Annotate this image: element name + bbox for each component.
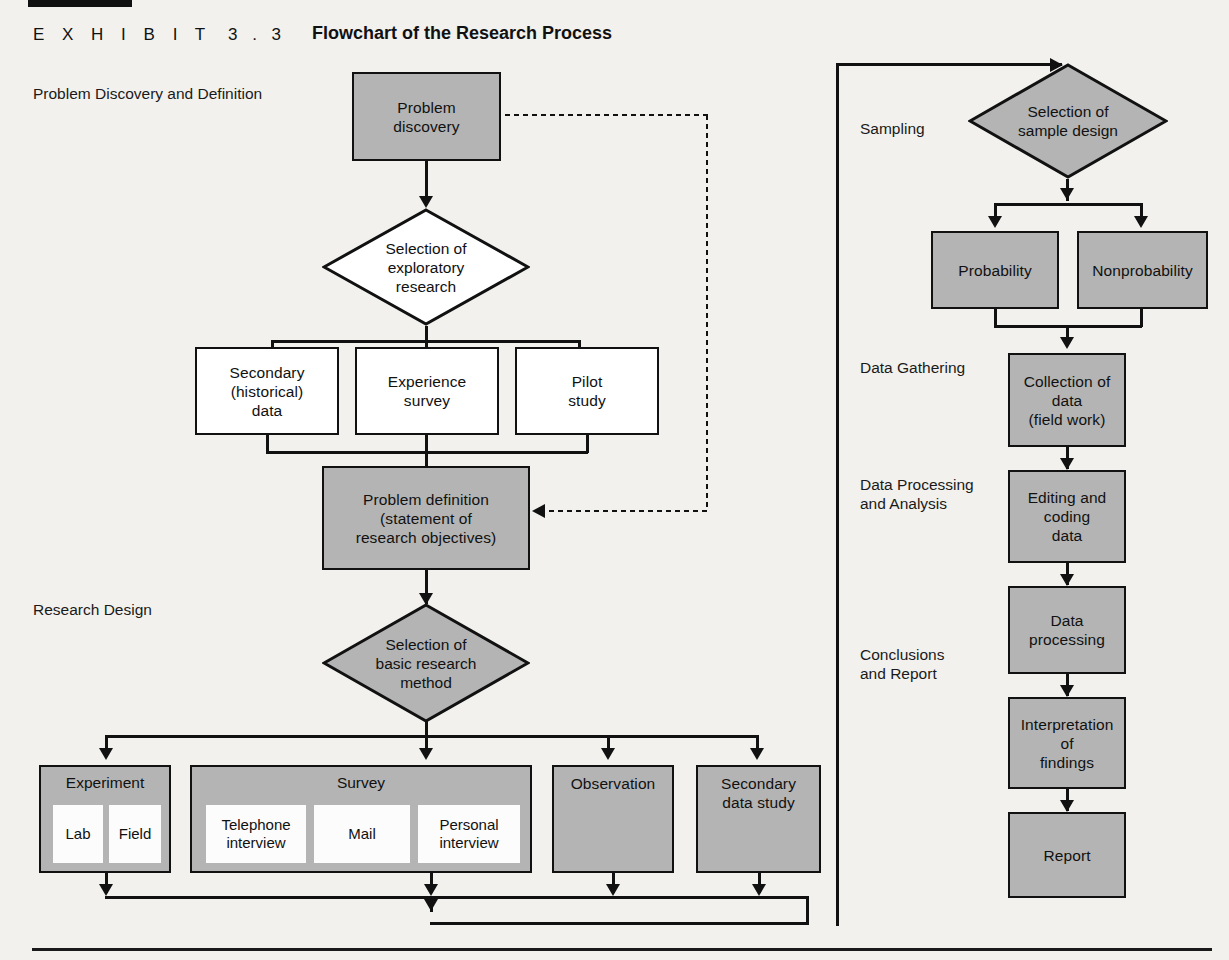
bottom-rule [32, 948, 1212, 951]
stage-label-data-processing: Data Processing and Analysis [860, 475, 974, 513]
connector-line [994, 203, 1142, 206]
node-label: Selection of basic research method [322, 603, 530, 723]
node-secondary-data-study: Secondary data study [696, 765, 821, 873]
connector-arrow [601, 748, 615, 760]
connector-arrow [1060, 337, 1074, 349]
node-selection-exploratory-research: Selection of exploratory research [322, 208, 530, 326]
exhibit-page: E X H I B I T 3 . 3 Flowchart of the Res… [0, 0, 1229, 960]
connector-arrow [419, 196, 433, 208]
feedback-dotted-line [705, 113, 709, 511]
stage-label-sampling: Sampling [860, 119, 925, 138]
stage-label-data-gathering: Data Gathering [860, 358, 965, 377]
node-collection-of-data: Collection of data (field work) [1008, 353, 1126, 447]
connector-arrow [424, 899, 438, 911]
node-data-processing: Data processing [1008, 586, 1126, 674]
exhibit-word: E X H I B I T [33, 25, 212, 45]
connector-arrow [1134, 216, 1148, 228]
connector-arrow [606, 884, 620, 896]
connector-arrow [988, 216, 1002, 228]
node-label: Selection of sample design [968, 63, 1168, 179]
stage-label-conclusions: Conclusions and Report [860, 645, 944, 683]
top-rule [28, 0, 132, 7]
connector-arrow [750, 748, 764, 760]
node-experience-survey: Experience survey [355, 347, 499, 435]
feedback-dotted-line [547, 509, 707, 513]
connector-arrow [1060, 800, 1074, 812]
connector-arrow [99, 748, 113, 760]
node-experiment-field: Field [109, 805, 161, 863]
node-pilot-study: Pilot study [515, 347, 659, 435]
node-selection-sample-design: Selection of sample design [968, 63, 1168, 179]
stage-label-problem-discovery: Problem Discovery and Definition [33, 84, 262, 103]
node-interpretation-of-findings: Interpretation of findings [1008, 697, 1126, 789]
connector-arrow [419, 748, 433, 760]
connector-arrow [99, 884, 113, 896]
node-editing-and-coding-data: Editing and coding data [1008, 470, 1126, 563]
connector-arrow [1060, 458, 1074, 470]
node-observation: Observation [552, 765, 674, 873]
connector-arrow [1060, 685, 1074, 697]
node-survey-personal-interview: Personal interview [418, 805, 520, 863]
column-divider [836, 63, 839, 926]
connector-arrow [1060, 188, 1074, 200]
node-survey: Survey Telephone interview Mail Personal… [190, 765, 532, 873]
node-nonprobability: Nonprobability [1077, 231, 1208, 309]
connector-arrow [1060, 574, 1074, 586]
node-survey-mail: Mail [314, 805, 410, 863]
node-problem-definition: Problem definition (statement of researc… [322, 466, 530, 570]
node-selection-basic-research-method: Selection of basic research method [322, 603, 530, 723]
node-secondary-historical-data: Secondary (historical) data [195, 347, 339, 435]
node-survey-telephone-interview: Telephone interview [206, 805, 306, 863]
connector-line [806, 896, 809, 924]
connector-arrow [424, 884, 438, 896]
feedback-dotted-line [503, 113, 709, 117]
node-report: Report [1008, 812, 1126, 898]
connector-line [105, 896, 809, 899]
stage-label-research-design: Research Design [33, 600, 152, 619]
node-survey-label: Survey [192, 774, 530, 792]
node-problem-discovery: Problem discovery [352, 72, 501, 161]
exhibit-number: 3 . 3 [228, 25, 286, 45]
feedback-arrow [532, 504, 545, 518]
node-label: Selection of exploratory research [322, 208, 530, 326]
node-experiment-lab: Lab [53, 805, 103, 863]
connector-arrow [752, 884, 766, 896]
page-title: Flowchart of the Research Process [312, 23, 612, 44]
connector-line [430, 922, 809, 925]
connector-line [105, 735, 758, 738]
node-experiment: Experiment Lab Field [39, 765, 171, 873]
connector-line [836, 922, 839, 925]
node-probability: Probability [931, 231, 1059, 309]
node-experiment-label: Experiment [41, 774, 169, 792]
